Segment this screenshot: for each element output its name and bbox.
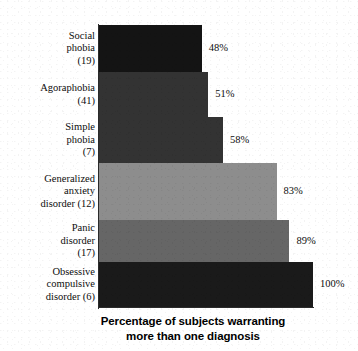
- category-label-line: phobia: [66, 134, 95, 147]
- bar: [99, 262, 313, 307]
- category-label-line: Agoraphobia: [40, 82, 95, 95]
- category-label: Obsessivecompulsivedisorder (6): [24, 262, 95, 307]
- category-label: Simplephobia(7): [24, 117, 95, 163]
- category-label-line: disorder (12): [40, 198, 95, 211]
- category-label-column: Socialphobia(19)Agoraphobia(41)Simplepho…: [24, 25, 95, 307]
- plot-area: [99, 25, 313, 307]
- y-axis-line: [98, 24, 99, 309]
- category-label-line: Generalized: [44, 173, 95, 186]
- bar-value-label: 58%: [230, 134, 249, 145]
- category-label-line: (41): [78, 95, 96, 108]
- bar-chart-figure: Primary diagnosis and number of subjects…: [0, 0, 358, 351]
- category-label: Panicdisorder(17): [24, 220, 95, 262]
- category-label-line: (7): [83, 146, 95, 159]
- bar-value-label: 83%: [284, 185, 303, 196]
- bar: [99, 163, 277, 220]
- x-axis-title-line: Percentage of subjects warranting: [58, 314, 328, 329]
- bar-value-label: 89%: [296, 235, 315, 246]
- bar: [99, 220, 289, 262]
- category-label-line: compulsive: [47, 278, 95, 291]
- category-label-line: anxiety: [64, 185, 95, 198]
- category-label-line: disorder: [61, 235, 95, 248]
- category-label-line: Obsessive: [52, 266, 95, 279]
- bar: [99, 117, 223, 163]
- category-label: Socialphobia(19): [24, 25, 95, 72]
- bar: [99, 25, 202, 72]
- category-label-line: Simple: [65, 121, 95, 134]
- x-axis-title-line: more than one diagnosis: [58, 329, 328, 344]
- category-label: Agoraphobia(41): [24, 72, 95, 117]
- x-axis-title: Percentage of subjects warrantingmore th…: [58, 314, 328, 343]
- x-axis-line: [98, 307, 314, 308]
- bar: [99, 72, 208, 117]
- category-label-line: phobia: [66, 42, 95, 55]
- bar-value-label: 48%: [209, 42, 228, 53]
- category-label-line: (19): [78, 55, 96, 68]
- bar-value-label: 100%: [320, 278, 345, 289]
- category-label-line: Social: [69, 30, 95, 43]
- category-label-line: (17): [78, 247, 96, 260]
- category-label-line: disorder (6): [46, 291, 95, 304]
- category-label-line: Panic: [72, 222, 95, 235]
- category-label: Generalizedanxietydisorder (12): [24, 163, 95, 220]
- bar-value-label: 51%: [215, 88, 234, 99]
